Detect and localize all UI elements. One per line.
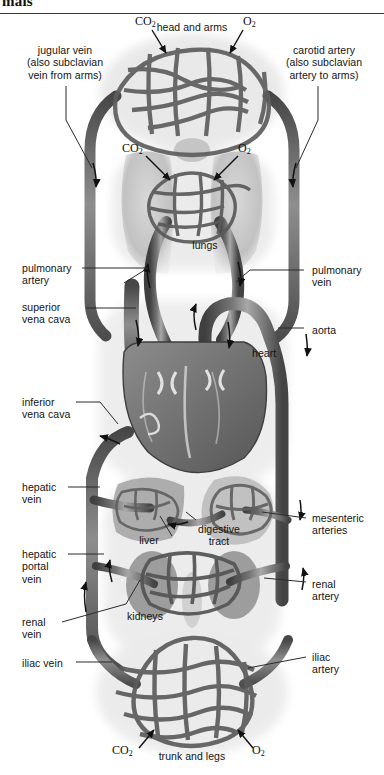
pulmonary-artery-vessel [150, 222, 170, 352]
gas-o2-lungs: O2 [238, 142, 251, 158]
hepatic-vein-vessel [94, 500, 150, 508]
leader-lines [62, 86, 318, 668]
lung-right-wash [210, 151, 262, 273]
label-pulmonary-vein: pulmonary vein [312, 264, 361, 289]
arrow-jugular-down [93, 163, 96, 187]
leader-renal-artery [264, 578, 306, 582]
header-partial-word: mals [2, 0, 33, 10]
leader-liver [160, 516, 172, 536]
arrow-mesenteric [300, 500, 301, 520]
superior-vena-cava-vessel [131, 286, 134, 372]
liver-wash [112, 477, 184, 541]
gas-formula: CO [135, 14, 152, 28]
head-arms-capillary-bed [115, 48, 269, 155]
leader-mesenteric-arteries [262, 512, 306, 518]
label-lungs: lungs [175, 239, 235, 251]
liver-capillary-bed [116, 489, 178, 530]
hepatic-portal-vein-vessel [170, 514, 222, 523]
label-hepatic-vein: hepatic vein [22, 481, 56, 506]
lung-left-wash [121, 151, 173, 273]
iliac-vein-vessel [92, 640, 136, 684]
gas-pointer-arrows [139, 30, 253, 748]
arrow-ivc-flow [100, 436, 120, 444]
leader-jugular-vein [66, 86, 92, 168]
label-jugular-vein: jugular vein (also subclavian vein from … [10, 44, 120, 81]
renal-vein-vessel [96, 566, 154, 584]
label-iliac-vein: iliac vein [22, 657, 63, 669]
pointer-o2-trunk [238, 730, 253, 748]
gas-subscript: 2 [261, 749, 265, 758]
gas-co2-trunk: CO2 [112, 744, 133, 760]
label-iliac-artery: iliac artery [312, 651, 339, 676]
arrow-renal-vein-up [85, 582, 87, 612]
inferior-vena-cava-vessel [92, 432, 128, 670]
leader-pulmonary-artery [82, 268, 148, 283]
pointer-o2-head [230, 30, 243, 53]
label-renal-vein: renal vein [22, 616, 46, 641]
arrow-iliac-artery [302, 568, 304, 590]
arrow-hepatic-up [109, 560, 112, 582]
gas-subscript: 2 [152, 20, 156, 29]
gas-subscript: 2 [252, 20, 256, 29]
label-heart: heart [252, 347, 276, 359]
label-liver: liver [122, 534, 176, 546]
gas-formula: CO [122, 141, 139, 155]
gas-formula: O [252, 743, 261, 757]
carotid-artery-vessel [268, 96, 294, 338]
label-aorta: aorta [312, 324, 336, 336]
arrow-pulmonary-artery-up [147, 264, 150, 288]
gas-subscript: 2 [129, 749, 133, 758]
gas-formula: O [243, 14, 252, 28]
leader-digestive-tract [186, 512, 196, 520]
label-digestive-tract: digestive tract [188, 523, 250, 548]
gas-o2-trunk: O2 [252, 744, 265, 760]
label-pulmonary-artery: pulmonary artery [22, 262, 71, 287]
renal-artery-vessel [230, 566, 286, 582]
page-header: mals [0, 0, 384, 16]
gas-formula: O [238, 141, 247, 155]
pointer-o2-lungs [214, 156, 238, 180]
gas-subscript: 2 [139, 147, 143, 156]
arrow-aortic-arch-up [194, 304, 196, 330]
lung-capillary-bed [149, 172, 250, 242]
pointer-co2-lungs [146, 156, 170, 180]
pointer-co2-trunk [139, 730, 154, 748]
gas-co2-lungs: CO2 [122, 142, 143, 158]
label-carotid-artery: carotid artery (also subclavian artery t… [268, 44, 380, 81]
arrow-aorta-down [228, 322, 230, 348]
mesenteric-arteries-vessel [246, 510, 288, 520]
iliac-artery-vessel [244, 640, 288, 684]
label-renal-artery: renal artery [312, 578, 339, 603]
leader-pulmonary-vein [236, 270, 304, 282]
leader-inferior-vena-cava [76, 402, 118, 424]
trunk-legs-capillary-bed [116, 638, 256, 746]
arrow-portal-flow [168, 522, 188, 525]
header-rule [0, 13, 384, 14]
gas-formula: CO [112, 743, 129, 757]
pointer-co2-head [152, 30, 166, 53]
arrow-descending-aorta-down [306, 334, 307, 356]
label-trunk-and-legs: trunk and legs [140, 750, 244, 762]
arrow-pulmonary-vein-down [238, 262, 241, 286]
label-hepatic-portal-vein: hepatic portal vein [22, 548, 56, 585]
gas-o2-head: O2 [243, 15, 256, 31]
gas-co2-head: CO2 [135, 15, 156, 31]
jugular-vein-vessel [90, 96, 116, 336]
arrow-carotid-down [293, 163, 296, 187]
kidney-right-wash [208, 551, 260, 619]
arrow-svc-down [136, 320, 139, 346]
heart-organ [123, 342, 267, 473]
label-mesenteric-arteries: mesenteric arteries [312, 512, 364, 537]
leader-carotid-artery [296, 86, 318, 168]
kidney-left-wash [126, 551, 178, 619]
label-inferior-vena-cava: inferior vena cava [22, 396, 70, 421]
circulatory-system-figure: mals [0, 0, 384, 775]
label-superior-vena-cava: superior vena cava [22, 301, 70, 326]
label-kidneys: kidneys [127, 610, 163, 622]
kidney-capillary-bed [142, 552, 240, 614]
leader-iliac-artery [248, 657, 306, 668]
gas-subscript: 2 [247, 147, 251, 156]
